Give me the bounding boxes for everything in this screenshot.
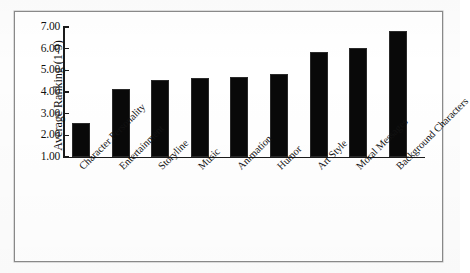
- y-axis-tick: [64, 113, 69, 115]
- y-axis-tick-label-text: 2.00: [20, 128, 60, 140]
- y-axis-tick-label: 5.00: [16, 63, 60, 75]
- y-axis-tick-label: 7.00: [16, 20, 60, 32]
- y-axis-tick: [64, 26, 69, 28]
- y-axis-tick-label-text: 7.00: [20, 20, 60, 32]
- y-axis-tick: [64, 70, 69, 72]
- bar: [230, 77, 248, 157]
- y-axis-tick-label: 2.00: [16, 128, 60, 140]
- y-axis-tick: [64, 91, 69, 93]
- y-axis-tick-label-text: 1.00: [20, 150, 60, 162]
- y-axis-tick-label: 3.00: [16, 107, 60, 119]
- y-axis-tick-label: 6.00: [16, 42, 60, 54]
- bar: [191, 78, 209, 157]
- y-axis-tick: [64, 135, 69, 137]
- bar: [310, 52, 328, 157]
- y-axis-tick: [64, 48, 69, 50]
- y-axis-tick-label-text: 4.00: [20, 85, 60, 97]
- y-axis-tick-label-text: 5.00: [20, 63, 60, 75]
- y-axis-tick: [64, 156, 69, 158]
- y-axis-tick-label-text: 6.00: [20, 42, 60, 54]
- y-axis-tick-label: 4.00: [16, 85, 60, 97]
- y-axis-tick-label: 1.00: [16, 150, 60, 162]
- bar: [349, 48, 367, 157]
- y-axis-tick-label-text: 3.00: [20, 107, 60, 119]
- bar: [151, 80, 169, 157]
- bar: [270, 74, 288, 157]
